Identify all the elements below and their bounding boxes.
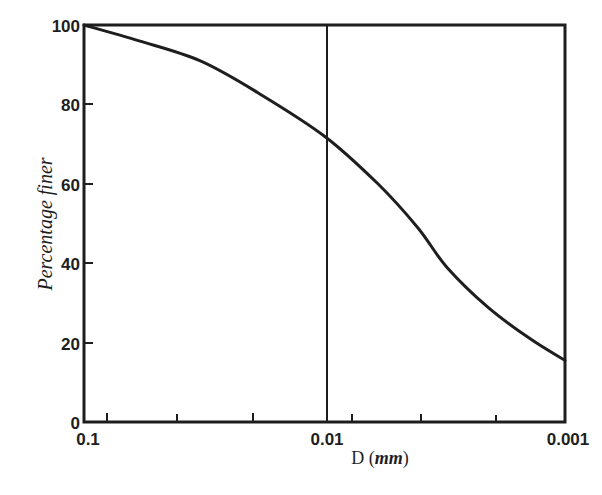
distribution-curve <box>84 25 565 361</box>
y-tick-40: 40 <box>61 255 80 274</box>
x-tick-labels: 0.1 0.01 0.001 <box>76 430 589 449</box>
y-tick-80: 80 <box>61 96 80 115</box>
y-axis-title: Percentage finer <box>34 157 57 291</box>
grain-size-chart: 0 20 40 60 80 100 0.1 0.01 0.001 Percent… <box>0 0 602 495</box>
x-tick-0.01: 0.01 <box>310 430 343 449</box>
y-tick-20: 20 <box>61 335 80 354</box>
plot-frame <box>84 25 565 422</box>
y-tick-60: 60 <box>61 176 80 195</box>
y-tick-100: 100 <box>52 17 80 36</box>
x-tick-0.1: 0.1 <box>76 430 100 449</box>
x-axis-unit: mm <box>375 448 403 468</box>
x-tick-0.001: 0.001 <box>547 430 590 449</box>
x-axis-title: D (mm) <box>351 448 409 469</box>
x-axis-variable: D <box>351 448 364 468</box>
